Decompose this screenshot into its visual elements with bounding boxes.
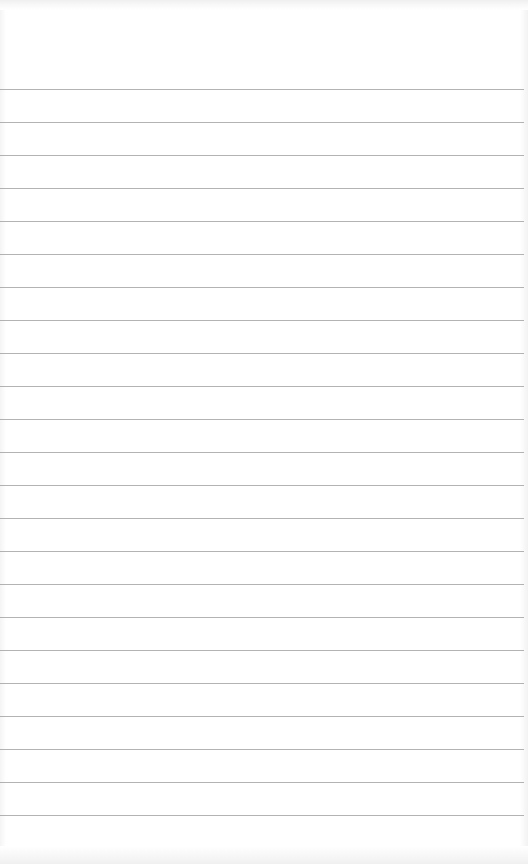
ruled-line [0, 617, 524, 618]
ruled-line [0, 122, 524, 123]
ruled-line [0, 518, 524, 519]
ruled-line [0, 650, 524, 651]
ruled-line [0, 386, 524, 387]
ruled-line [0, 353, 524, 354]
ruled-line [0, 749, 524, 750]
ruled-line [0, 254, 524, 255]
ruled-line [0, 155, 524, 156]
ruled-line [0, 320, 524, 321]
ruled-line [0, 485, 524, 486]
ruled-line [0, 89, 524, 90]
ruled-line [0, 815, 524, 816]
ruled-line [0, 221, 524, 222]
page-bottom-edge [0, 846, 528, 864]
ruled-line [0, 419, 524, 420]
ruled-line [0, 287, 524, 288]
lined-notepad-page [0, 0, 528, 864]
ruled-line [0, 584, 524, 585]
ruled-line [0, 188, 524, 189]
ruled-line [0, 716, 524, 717]
ruled-line [0, 452, 524, 453]
ruled-line [0, 782, 524, 783]
ruled-line [0, 683, 524, 684]
ruled-line [0, 551, 524, 552]
torn-top-edge [0, 0, 528, 10]
